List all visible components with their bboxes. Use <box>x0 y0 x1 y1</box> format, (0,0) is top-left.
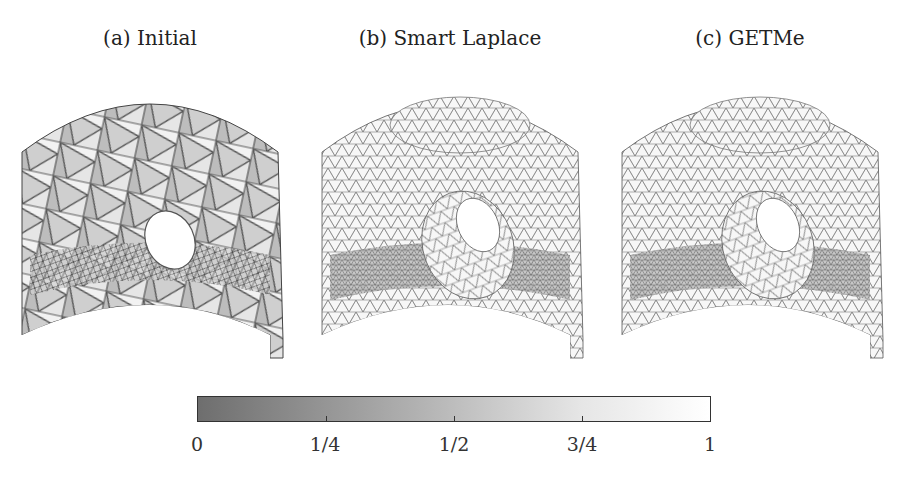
colorbar-tick-half <box>454 416 455 421</box>
caption-initial: (a) Initial <box>0 26 300 50</box>
mesh-panel-getme <box>600 60 899 370</box>
quality-colorbar <box>197 396 711 422</box>
colorbar-label-1: 1 <box>704 433 716 455</box>
colorbar-tick-three-quarter <box>582 416 583 421</box>
colorbar-label-3-4: 3/4 <box>567 433 598 455</box>
colorbar-label-0: 0 <box>191 433 203 455</box>
colorbar-tick-quarter <box>326 416 327 421</box>
mesh-panel-initial <box>0 60 300 370</box>
colorbar-label-1-2: 1/2 <box>439 433 470 455</box>
caption-getme: (c) GETMe <box>600 26 899 50</box>
mesh-panel-smart-laplace <box>300 60 600 370</box>
piston-mesh-initial <box>0 60 300 370</box>
piston-mesh-smart-laplace <box>300 60 600 370</box>
caption-smart-laplace: (b) Smart Laplace <box>300 26 600 50</box>
piston-mesh-getme <box>600 60 899 370</box>
colorbar-label-1-4: 1/4 <box>310 433 341 455</box>
